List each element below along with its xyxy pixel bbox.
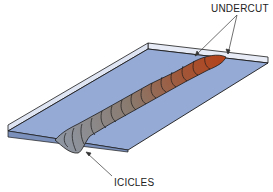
weld-diagram <box>0 0 273 192</box>
icicles-leader <box>87 153 112 176</box>
icicles-arrow <box>86 152 91 156</box>
icicles-label: ICICLES <box>114 177 154 188</box>
undercut-leader-left <box>195 15 237 56</box>
undercut-leader-right <box>228 15 237 54</box>
undercut-label: UNDERCUT <box>211 3 269 14</box>
